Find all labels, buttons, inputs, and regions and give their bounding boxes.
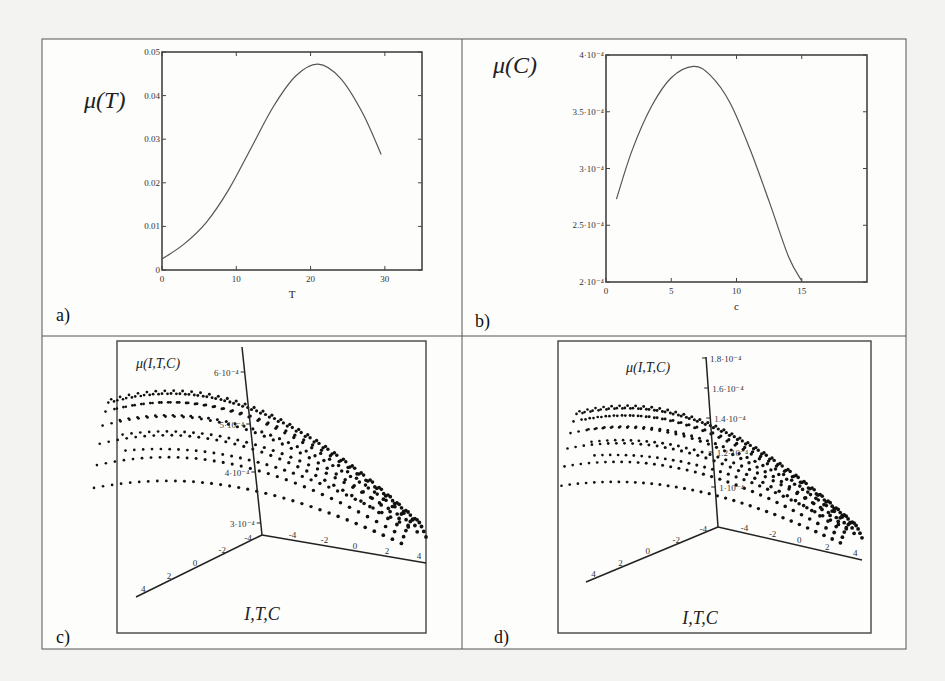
figure-frame bbox=[42, 39, 906, 649]
right-axis-tick-label: 4 bbox=[417, 551, 422, 561]
y-tick-label: 3·10⁻⁴ bbox=[579, 164, 604, 174]
z-axis-title: μ(I,T,C) bbox=[625, 360, 670, 376]
y-tick-label: 3.5·10⁻⁴ bbox=[573, 107, 604, 117]
z-tick-label: 3·10⁻⁴ bbox=[230, 519, 255, 529]
z-tick-label: 5·10⁻⁴ bbox=[220, 420, 245, 430]
z-tick-label: 1.8·10⁻⁴ bbox=[710, 354, 741, 364]
right-axis-tick-label: 2 bbox=[825, 542, 830, 552]
y-tick-label: 0 bbox=[156, 265, 161, 275]
x-axis-title: c bbox=[734, 300, 739, 312]
x-tick-label: 20 bbox=[306, 274, 316, 284]
y-tick-label: 0.01 bbox=[144, 221, 160, 231]
z-tick-label: 4·10⁻⁴ bbox=[225, 468, 250, 478]
x-tick-label: 10 bbox=[232, 274, 242, 284]
left-axis-tick-label: -2 bbox=[672, 535, 680, 545]
x-tick-label: 10 bbox=[732, 286, 742, 296]
left-axis-tick-label: 2 bbox=[618, 558, 623, 568]
right-axis-tick-label: 0 bbox=[797, 535, 802, 545]
y-tick-label: 2.5·10⁻⁴ bbox=[573, 220, 604, 230]
y-tick-label: 2·10⁻⁴ bbox=[579, 277, 604, 287]
x-axis-title: I,T,C bbox=[681, 608, 719, 628]
panel-label-b: b) bbox=[475, 311, 490, 332]
y-axis-title: μ(T) bbox=[83, 87, 125, 113]
figure: 010203000.010.020.030.040.05Tμ(T) 051015… bbox=[0, 0, 945, 681]
z-tick-label: 6·10⁻⁴ bbox=[214, 368, 239, 378]
left-axis-tick-label: 0 bbox=[193, 558, 198, 568]
right-axis-tick-label: -2 bbox=[321, 535, 329, 545]
y-tick-label: 4·10⁻⁴ bbox=[579, 50, 604, 60]
right-axis-tick-label: -2 bbox=[769, 529, 777, 539]
x-tick-label: 0 bbox=[160, 274, 165, 284]
panel-label-c: c) bbox=[56, 627, 70, 648]
left-axis-tick-label: -4 bbox=[700, 524, 708, 534]
right-axis-tick-label: 4 bbox=[853, 548, 858, 558]
y-tick-label: 0.05 bbox=[144, 47, 160, 57]
left-axis-tick-label: -2 bbox=[219, 545, 227, 555]
y-axis-title: μ(C) bbox=[492, 52, 537, 78]
x-tick-label: 15 bbox=[797, 286, 807, 296]
panel-label-a: a) bbox=[56, 305, 70, 326]
x-axis-title: T bbox=[289, 288, 296, 300]
left-axis-tick-label: 0 bbox=[645, 546, 650, 556]
y-tick-label: 0.03 bbox=[144, 134, 160, 144]
right-axis-tick-label: -4 bbox=[741, 523, 749, 533]
z-axis-title: μ(I,T,C) bbox=[135, 356, 180, 372]
x-tick-label: 0 bbox=[604, 286, 609, 296]
left-axis-tick-label: 4 bbox=[141, 584, 146, 594]
right-axis-tick-label: 0 bbox=[353, 541, 358, 551]
left-axis-tick-label: 4 bbox=[591, 569, 596, 579]
panel-label-d: d) bbox=[494, 627, 509, 648]
left-axis-tick-label: -4 bbox=[244, 533, 252, 543]
z-tick-label: 1.2·10⁻⁴ bbox=[717, 448, 748, 458]
z-tick-label: 1.6·10⁻⁴ bbox=[712, 384, 743, 394]
x-tick-label: 30 bbox=[380, 274, 390, 284]
z-tick-label: 1·10⁻⁴ bbox=[719, 483, 744, 493]
x-axis-title: I,T,C bbox=[243, 604, 281, 624]
z-tick-label: 1.4·10⁻⁴ bbox=[714, 414, 745, 424]
x-tick-label: 5 bbox=[669, 286, 674, 296]
right-axis-tick-label: 2 bbox=[385, 546, 390, 556]
left-axis-tick-label: 2 bbox=[167, 571, 172, 581]
right-axis-tick-label: -4 bbox=[289, 530, 297, 540]
y-tick-label: 0.04 bbox=[144, 91, 160, 101]
y-tick-label: 0.02 bbox=[144, 178, 160, 188]
